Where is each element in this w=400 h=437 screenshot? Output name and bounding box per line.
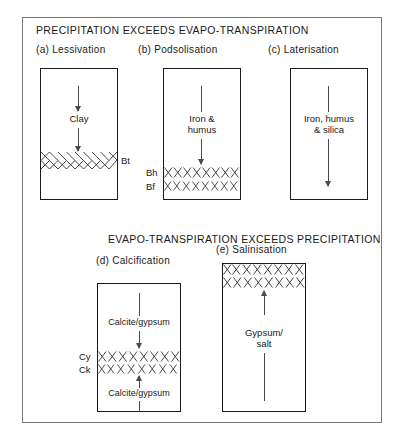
panel-caption-b-podsolisation: (b) Podsolisation: [138, 44, 218, 55]
arrow-shaft: [328, 86, 329, 112]
hatch-band-d-ck: [98, 364, 180, 374]
arrow-head: [325, 181, 331, 187]
hatch-band-b-bh: [164, 167, 240, 178]
hatch-band-e-upper: [223, 264, 305, 275]
arrow-head: [136, 343, 142, 349]
horizon-label-d-ck: Ck: [79, 364, 91, 375]
hatch-band-a-bt: [41, 152, 117, 169]
arrow-head: [75, 106, 81, 112]
arrow-head: [198, 159, 204, 165]
process-label-c-silica-line2: & silica: [290, 124, 368, 136]
process-label-d-top-calcite: Calcite/gypsum: [97, 317, 181, 329]
arrow-down-c-lower: [324, 139, 333, 186]
hatch-band-e-lower: [223, 277, 305, 288]
panel-caption-d-calcification: (d) Calcification: [96, 255, 170, 266]
arrow-shaft: [264, 353, 265, 401]
arrow-line-b-upper: [197, 86, 206, 112]
horizon-label-b-bf: Bf: [146, 181, 155, 192]
arrow-down-d: [135, 331, 144, 348]
arrow-down-a-upper: [74, 86, 83, 111]
arrow-line-e-lower: [260, 353, 269, 401]
process-label-c-iron-humus-line1: Iron, humus: [290, 113, 368, 125]
process-label-e-salt-line2: salt: [222, 338, 306, 350]
arrow-down-a-lower: [74, 128, 83, 151]
arrow-line-d-bottom: [135, 401, 144, 412]
panel-caption-e-salinisation: (e) Salinisation: [216, 244, 287, 255]
process-label-e-gypsum-line1: Gypsum/: [222, 327, 306, 339]
arrow-shaft: [328, 139, 329, 186]
arrow-shaft: [139, 401, 140, 412]
process-label-b-iron-line1: Iron &: [163, 113, 241, 125]
arrow-shaft: [139, 293, 140, 316]
panel-caption-a-lessivation: (a) Lessivation: [36, 44, 106, 55]
arrow-line-d-top: [135, 293, 144, 316]
arrow-down-b-lower: [197, 139, 206, 164]
arrow-head: [261, 290, 267, 296]
horizon-label-d-cy: Cy: [79, 351, 91, 362]
arrow-up-e: [260, 291, 269, 315]
arrow-up-d: [135, 376, 144, 388]
hatch-band-d-cy: [98, 351, 180, 362]
process-label-b-humus-line2: humus: [163, 124, 241, 136]
horizon-label-b-bh: Bh: [146, 167, 158, 178]
horizon-label-a-bt: Bt: [121, 155, 130, 166]
panel-caption-c-laterisation: (c) Laterisation: [268, 44, 339, 55]
hatch-band-b-bf: [164, 181, 240, 191]
arrow-line-c-upper: [324, 86, 333, 112]
process-label-a-clay: Clay: [40, 113, 118, 125]
process-label-d-bottom-calcite: Calcite/gypsum: [97, 388, 181, 400]
arrow-head: [136, 375, 142, 381]
arrow-shaft: [201, 86, 202, 112]
section-heading-precipitation: PRECIPITATION EXCEEDS EVAPO-TRANSPIRATIO…: [36, 24, 309, 36]
